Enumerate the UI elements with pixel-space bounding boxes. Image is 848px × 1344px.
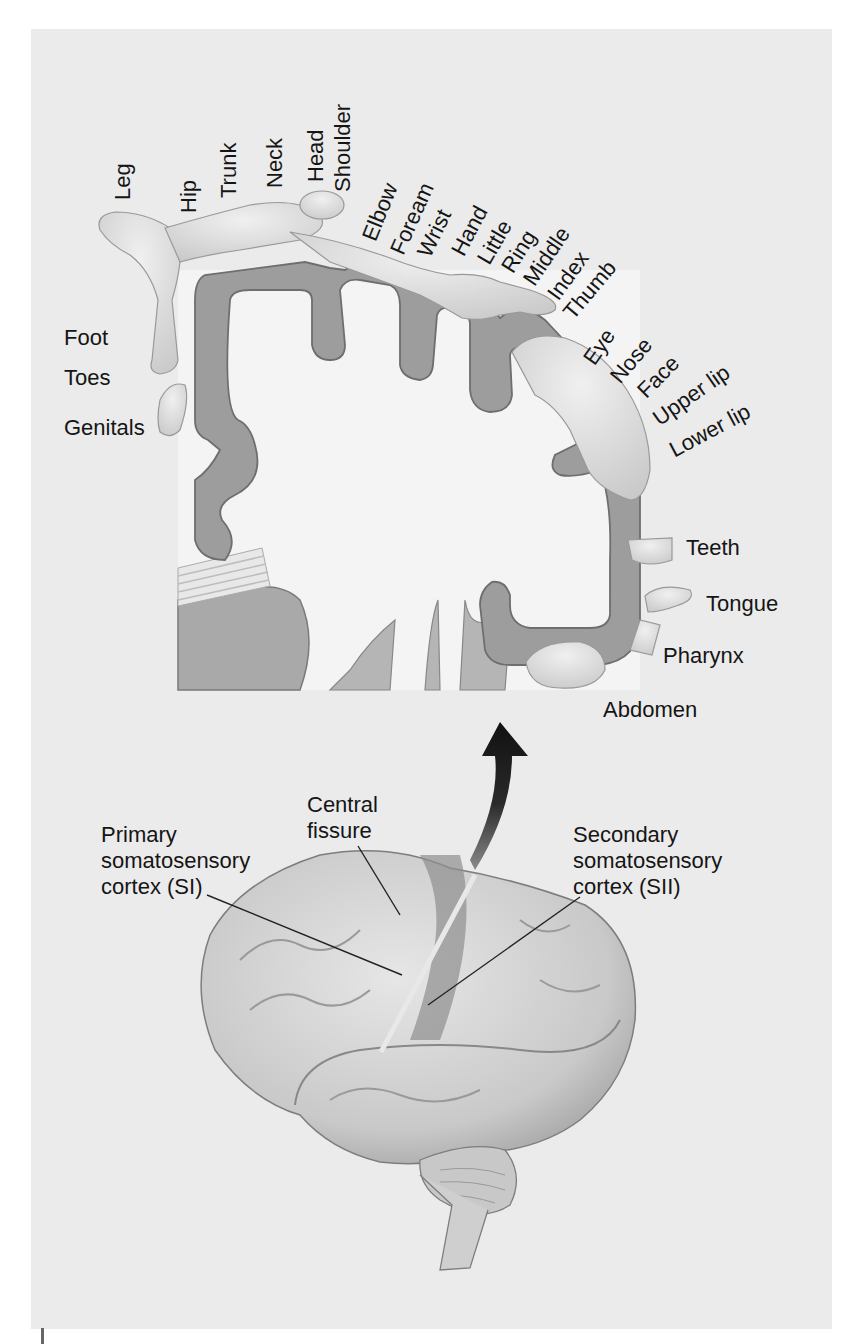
label-trunk: Trunk: [216, 143, 242, 198]
label-pharynx: Pharynx: [663, 643, 744, 669]
cortex-section: [178, 262, 640, 690]
label-secondary-line1: Secondary: [573, 822, 722, 848]
label-hip: Hip: [176, 180, 202, 213]
label-secondary-somatosensory-cortex: Secondary somatosensory cortex (SII): [573, 822, 722, 900]
label-toes: Toes: [64, 365, 110, 391]
label-primary-line1: Primary: [101, 822, 250, 848]
arrow-up-icon: [470, 722, 528, 870]
label-tongue: Tongue: [706, 591, 778, 617]
label-teeth: Teeth: [686, 535, 740, 561]
brain-lateral-view: [201, 846, 635, 1270]
label-central-line1: Central: [307, 792, 378, 818]
label-central-fissure: Central fissure: [307, 792, 378, 844]
label-central-line2: fissure: [307, 818, 378, 844]
label-leg: Leg: [110, 163, 136, 200]
label-genitals: Genitals: [64, 415, 145, 441]
label-shoulder: Shoulder: [330, 104, 356, 192]
label-primary-line2: somatosensory: [101, 848, 250, 874]
label-neck: Neck: [262, 138, 288, 188]
label-secondary-line3: cortex (SII): [573, 874, 722, 900]
label-head: Head: [303, 129, 329, 182]
label-primary-line3: cortex (SI): [101, 874, 250, 900]
label-secondary-line2: somatosensory: [573, 848, 722, 874]
label-abdomen: Abdomen: [603, 697, 697, 723]
label-foot: Foot: [64, 325, 108, 351]
label-primary-somatosensory-cortex: Primary somatosensory cortex (SI): [101, 822, 250, 900]
